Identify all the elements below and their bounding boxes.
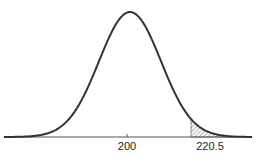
normal-curve-chart: 200 220.5 (0, 0, 259, 157)
normal-curve (4, 12, 252, 137)
tick-label-mean: 200 (118, 140, 136, 152)
tick-label-cutoff: 220.5 (196, 140, 224, 152)
shaded-tail-region (191, 119, 232, 137)
